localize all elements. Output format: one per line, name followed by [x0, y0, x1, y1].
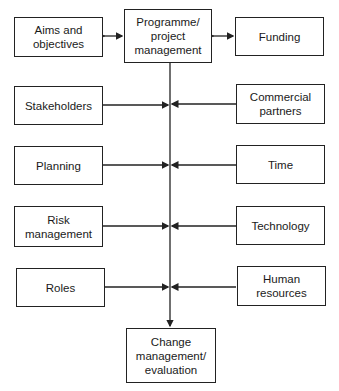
- box-label: Roles: [46, 281, 75, 295]
- box-label: Aims and objectives: [17, 23, 100, 51]
- box-roles: Roles: [16, 268, 105, 307]
- box-label: Funding: [259, 30, 301, 44]
- box-label: Time: [268, 158, 293, 172]
- box-risk-management: Risk management: [14, 206, 103, 247]
- box-label: Planning: [36, 159, 81, 173]
- box-change-management: Change management/ evaluation: [126, 328, 216, 383]
- box-programme-management: Programme/ project management: [124, 9, 212, 63]
- box-label: Risk management: [17, 213, 100, 241]
- box-label: Commercial partners: [239, 90, 322, 118]
- box-time: Time: [236, 145, 325, 184]
- box-aims-objectives: Aims and objectives: [14, 17, 103, 57]
- box-funding: Funding: [235, 17, 324, 56]
- box-label: Change management/ evaluation: [129, 335, 213, 377]
- box-stakeholders: Stakeholders: [14, 86, 103, 125]
- box-planning: Planning: [14, 146, 103, 185]
- box-human-resources: Human resources: [237, 266, 326, 306]
- box-technology: Technology: [236, 206, 325, 245]
- box-label: Technology: [251, 219, 309, 233]
- box-label: Stakeholders: [25, 99, 92, 113]
- box-label: Human resources: [240, 272, 323, 300]
- box-label: Programme/ project management: [127, 15, 209, 57]
- box-commercial-partners: Commercial partners: [236, 84, 325, 124]
